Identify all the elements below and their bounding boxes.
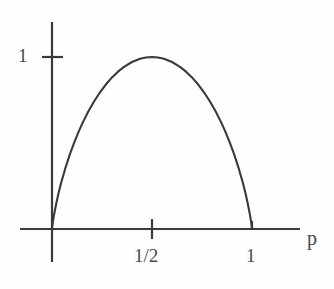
binary-entropy-figure: 1 1/2 1 p bbox=[0, 0, 334, 289]
x-axis-tick-label-one: 1 bbox=[246, 246, 256, 265]
entropy-curve bbox=[52, 57, 252, 229]
plot-canvas bbox=[0, 0, 334, 289]
x-axis-tick-label-half: 1/2 bbox=[134, 246, 158, 265]
x-axis-name-label: p bbox=[307, 228, 317, 248]
y-axis-tick-label-one: 1 bbox=[18, 46, 28, 65]
